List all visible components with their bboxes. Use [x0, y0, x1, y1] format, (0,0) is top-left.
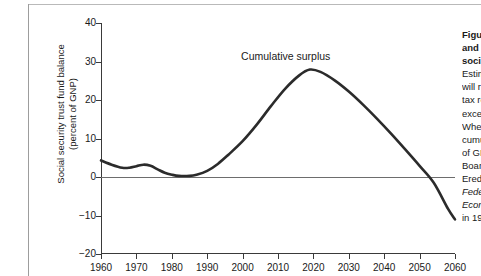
caption-line: tax reve: [462, 93, 481, 106]
caption-line: in 1989: [462, 211, 481, 224]
caption-line: Figure 1: [462, 28, 481, 41]
x-tick-mark: [243, 254, 244, 259]
y-tick-label: 40: [50, 18, 96, 28]
caption-line: Federal: [462, 185, 481, 198]
y-tick-label: −20: [50, 249, 96, 259]
x-tick-mark: [313, 254, 314, 259]
annotation-cumulative-surplus: Cumulative surplus: [241, 50, 330, 62]
y-tick-label: 20: [50, 95, 96, 105]
caption-line: Estimated: [462, 67, 481, 80]
caption-line: When th: [462, 120, 481, 133]
y-axis-title: Social security trust fund balance (perc…: [55, 14, 79, 214]
y-tick-label: 0: [50, 172, 96, 182]
caption-line: of GNP.: [462, 146, 481, 159]
y-tick-label: 30: [50, 57, 96, 67]
x-tick-mark: [136, 254, 137, 259]
caption-line: Board o: [462, 159, 481, 172]
figure-page: Social security trust fund balance (perc…: [0, 0, 481, 276]
x-tick-mark: [207, 254, 208, 259]
chart-figure: Social security trust fund balance (perc…: [30, 6, 455, 276]
y-tick-label: −10: [50, 211, 96, 221]
caption-line: will rise: [462, 80, 481, 93]
x-tick-mark: [349, 254, 350, 259]
page-rule-top: [28, 4, 481, 5]
caption-line: cumulat: [462, 133, 481, 146]
x-tick-mark: [101, 254, 102, 259]
plot-area: 403020100−10−20 196019701980199020002010…: [101, 23, 455, 254]
caption-line: social: [462, 54, 481, 67]
x-tick-label: 2060: [433, 262, 477, 273]
x-tick-mark: [455, 254, 456, 259]
y-tick-label: 10: [50, 134, 96, 144]
x-tick-mark: [172, 254, 173, 259]
x-tick-mark: [384, 254, 385, 259]
caption-line: Economi: [462, 198, 481, 211]
figure-caption: Figure 1and thesocialEstimatedwill riset…: [462, 28, 481, 248]
x-tick-mark: [420, 254, 421, 259]
x-tick-mark: [278, 254, 279, 259]
caption-line: exceed: [462, 107, 481, 120]
caption-line: Ered by: [462, 172, 481, 185]
page-rule-left: [28, 4, 29, 276]
caption-line: and the: [462, 41, 481, 54]
